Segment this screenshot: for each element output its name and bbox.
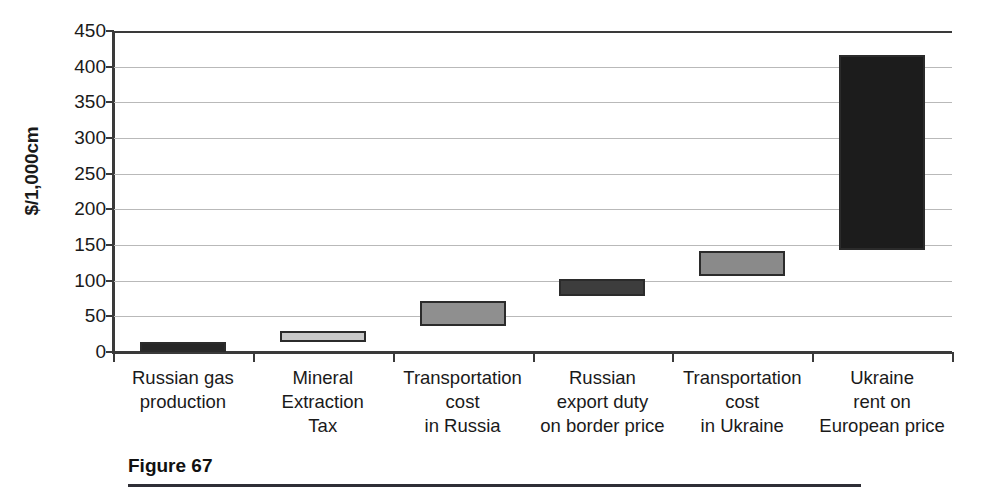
y-tick-label-50: 50 xyxy=(46,306,106,325)
x-axis-label-line: cost xyxy=(672,390,812,414)
gridline-300 xyxy=(113,138,952,139)
y-tick-mark-250 xyxy=(106,173,114,175)
figure-caption: Figure 67 xyxy=(128,455,863,487)
figure-container: $/1,000cm 450400350300250200150100500 Fi… xyxy=(0,0,985,502)
x-tick-3 xyxy=(533,352,535,362)
gridline-100 xyxy=(113,281,952,282)
x-axis-label-line: export duty xyxy=(533,390,673,414)
x-tick-4 xyxy=(672,352,674,362)
bar-4 xyxy=(559,279,645,297)
x-axis-label-3: Transportationcostin Russia xyxy=(393,366,533,438)
y-tick-label-250: 250 xyxy=(46,164,106,183)
x-tick-end xyxy=(952,352,954,362)
plot-area xyxy=(113,31,952,352)
x-axis-label-line: on border price xyxy=(533,414,673,438)
y-tick-label-100: 100 xyxy=(46,271,106,290)
x-tick-2 xyxy=(393,352,395,362)
bar-1 xyxy=(140,342,226,352)
bar-2 xyxy=(280,331,366,342)
y-tick-mark-50 xyxy=(106,315,114,317)
x-tick-1 xyxy=(253,352,255,362)
gridline-400 xyxy=(113,67,952,68)
figure-caption-title: Figure 67 xyxy=(128,455,863,477)
x-axis-label-line: Transportation xyxy=(393,366,533,390)
x-axis-label-1: Russian gasproduction xyxy=(113,366,253,414)
x-axis-label-line: production xyxy=(113,390,253,414)
gridline-150 xyxy=(113,245,952,246)
x-axis-label-line: European price xyxy=(812,414,952,438)
x-axis-label-4: Russianexport dutyon border price xyxy=(533,366,673,438)
gridline-450 xyxy=(113,31,952,33)
y-tick-mark-200 xyxy=(106,208,114,210)
y-tick-label-300: 300 xyxy=(46,128,106,147)
bar-5 xyxy=(699,251,785,276)
y-tick-label-200: 200 xyxy=(46,199,106,218)
gridline-200 xyxy=(113,209,952,210)
y-tick-label-400: 400 xyxy=(46,57,106,76)
y-tick-mark-400 xyxy=(106,66,114,68)
y-axis-tick-labels: 450400350300250200150100500 xyxy=(40,0,106,502)
x-axis-label-line: Tax xyxy=(253,414,393,438)
y-tick-mark-450 xyxy=(106,30,114,32)
x-axis-label-line: rent on xyxy=(812,390,952,414)
gridline-350 xyxy=(113,102,952,103)
x-axis-label-5: Transportationcostin Ukraine xyxy=(672,366,812,438)
x-axis-label-line: Russian xyxy=(533,366,673,390)
y-tick-mark-300 xyxy=(106,137,114,139)
gridline-250 xyxy=(113,174,952,175)
x-axis-label-line: Transportation xyxy=(672,366,812,390)
x-axis-label-line: cost xyxy=(393,390,533,414)
x-axis-label-line: in Ukraine xyxy=(672,414,812,438)
x-tick-5 xyxy=(812,352,814,362)
x-axis-label-2: MineralExtractionTax xyxy=(253,366,393,438)
y-tick-mark-150 xyxy=(106,244,114,246)
x-axis-label-line: Russian gas xyxy=(113,366,253,390)
y-tick-mark-350 xyxy=(106,101,114,103)
y-tick-label-0: 0 xyxy=(46,342,106,361)
x-axis-label-line: Mineral xyxy=(253,366,393,390)
y-tick-label-450: 450 xyxy=(46,21,106,40)
gridline-50 xyxy=(113,316,952,317)
y-tick-label-350: 350 xyxy=(46,92,106,111)
x-axis-label-line: Extraction xyxy=(253,390,393,414)
x-tick-start xyxy=(113,352,115,362)
x-axis-label-6: Ukrainerent onEuropean price xyxy=(812,366,952,438)
bar-3 xyxy=(420,301,506,326)
y-tick-label-150: 150 xyxy=(46,235,106,254)
y-tick-mark-100 xyxy=(106,280,114,282)
bar-6 xyxy=(839,55,925,250)
x-axis-label-line: in Russia xyxy=(393,414,533,438)
x-axis-label-line: Ukraine xyxy=(812,366,952,390)
caption-divider xyxy=(128,484,861,487)
